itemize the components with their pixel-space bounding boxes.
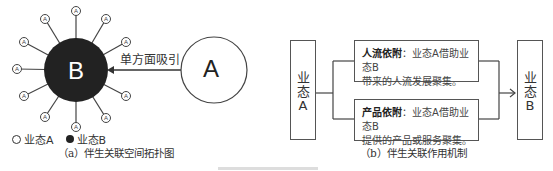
separator: ：: [402, 107, 412, 118]
arrow-label: 单方面吸引: [120, 50, 180, 67]
business-b-label: B: [68, 57, 84, 84]
right-node-char-2: 态: [518, 85, 542, 99]
svg-text:A: A: [124, 39, 128, 45]
svg-text:A: A: [74, 8, 78, 14]
legend-item-a: 业态A: [24, 131, 54, 147]
svg-text:A: A: [104, 115, 108, 121]
left-node-char-1: 业: [291, 71, 315, 85]
right-node-char-3: B: [518, 99, 542, 113]
svg-text:A: A: [43, 16, 47, 22]
mechanism-title: 人流依附: [362, 48, 402, 59]
svg-text:A: A: [43, 114, 47, 120]
business-b-box: 业 态 B: [517, 40, 543, 140]
svg-text:A: A: [124, 93, 128, 99]
left-node-char-2: 态: [291, 85, 315, 99]
svg-text:A: A: [22, 93, 26, 99]
mechanism-text-2: 带来的人流发展聚集。: [362, 75, 478, 89]
caption-a: （a）伴生关联空间拓扑图: [58, 145, 174, 160]
caption-b: （b）伴生关联作用机制: [360, 145, 467, 160]
left-node-char-3: A: [291, 99, 315, 113]
svg-text:A: A: [15, 66, 19, 72]
separator: ：: [402, 48, 412, 59]
right-node-char-1: 业: [518, 71, 542, 85]
svg-text:A: A: [74, 124, 78, 130]
business-a-box: 业 态 A: [290, 40, 316, 140]
mechanism-box-people-flow: 人流依附：业态A借助业态B 带来的人流发展聚集。: [354, 40, 479, 82]
svg-text:A: A: [22, 39, 26, 45]
mechanism-title: 产品依附: [362, 107, 402, 118]
external-a-label: A: [203, 55, 219, 83]
svg-text:A: A: [104, 16, 108, 22]
mechanism-box-product: 产品依附：业态A借助业态B 提供的产品或服务聚集。: [354, 99, 479, 141]
open-circle-icon: [12, 135, 21, 144]
clipped-figure-caption: [218, 167, 318, 170]
filled-circle-icon: [66, 135, 74, 143]
